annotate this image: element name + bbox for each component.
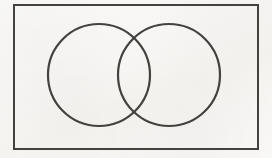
right-set-circle — [118, 24, 220, 126]
left-set-circle — [48, 24, 150, 126]
venn-diagram-figure — [0, 0, 272, 158]
venn-diagram-canvas — [0, 0, 272, 158]
universal-set-frame — [14, 5, 258, 149]
